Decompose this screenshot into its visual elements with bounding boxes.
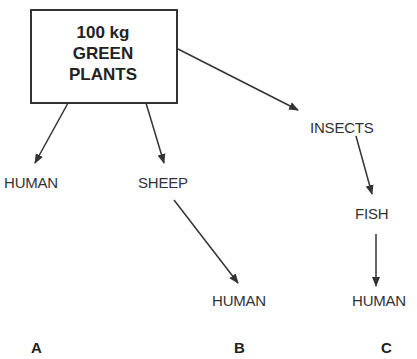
- green-plants-label: 100 kg GREEN PLANTS: [30, 22, 176, 85]
- plants-text: PLANTS: [30, 64, 176, 85]
- node-insects: INSECTS: [310, 119, 374, 136]
- chain-label-c: C: [381, 339, 392, 356]
- arrow-plants-to-sheep: [146, 103, 164, 163]
- chain-label-b: B: [234, 339, 245, 356]
- arrow-sheep-to-human-b: [174, 200, 238, 283]
- arrow-insects-to-fish: [356, 136, 372, 194]
- green-text: GREEN: [30, 43, 176, 64]
- arrow-plants-to-insects: [178, 49, 298, 110]
- food-chain-diagram: 100 kg GREEN PLANTS HUMAN SHEEP INSECTS …: [0, 0, 417, 359]
- mass-text: 100 kg: [30, 22, 176, 43]
- node-human-b: HUMAN: [212, 292, 266, 309]
- arrow-plants-to-human-a: [35, 103, 68, 163]
- node-human-c: HUMAN: [352, 292, 406, 309]
- node-fish: FISH: [355, 205, 388, 222]
- node-sheep: SHEEP: [138, 174, 188, 191]
- node-human-a: HUMAN: [4, 174, 58, 191]
- chain-label-a: A: [31, 339, 42, 356]
